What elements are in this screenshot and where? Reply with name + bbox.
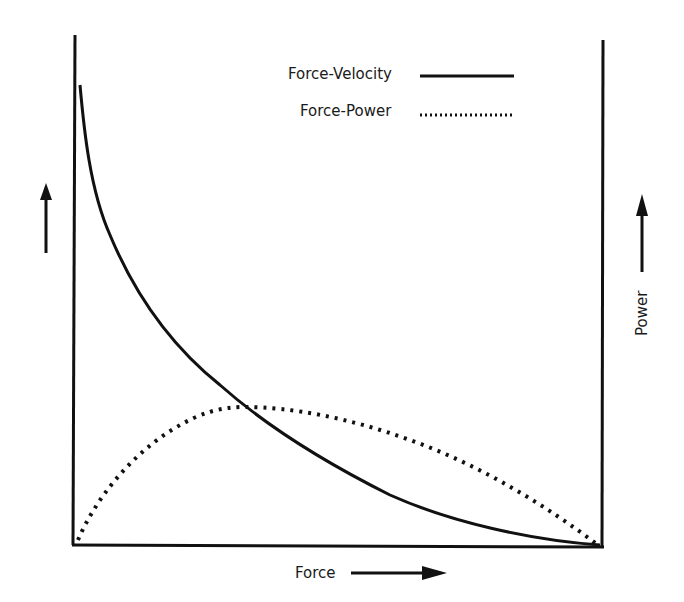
- x-axis-label: Force: [295, 564, 336, 582]
- force-power-curve: [78, 407, 598, 545]
- force-velocity-power-chart: Force-Velocity Force-Power Power Force: [0, 0, 684, 602]
- left-y-axis: [73, 35, 75, 545]
- force-arrow-icon: [422, 566, 447, 580]
- y-axis-right-label: Power: [633, 290, 651, 336]
- force-velocity-curve: [80, 85, 600, 545]
- x-axis: [72, 545, 604, 547]
- velocity-arrow-icon: [40, 183, 52, 200]
- right-y-axis: [602, 40, 603, 547]
- legend-force-velocity-label: Force-Velocity: [288, 65, 392, 83]
- power-arrow-icon: [636, 194, 648, 216]
- legend-force-power-label: Force-Power: [300, 102, 392, 120]
